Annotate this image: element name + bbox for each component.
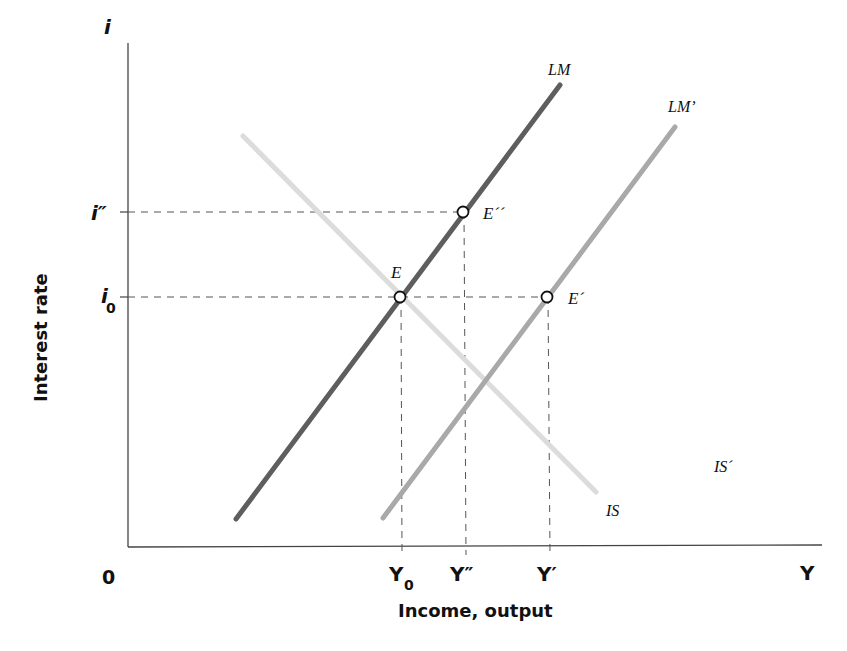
equilibrium-point-e bbox=[395, 292, 406, 303]
x-tick-y-prime: Y′ bbox=[536, 562, 557, 586]
y-axis-symbol: i bbox=[104, 15, 112, 39]
x-axis bbox=[128, 545, 822, 547]
y-tick-i0-sub: 0 bbox=[106, 300, 116, 316]
y-axis-title: Interest rate bbox=[30, 273, 51, 402]
y-tick-i0: i 0 bbox=[101, 284, 116, 316]
x-axis-symbol: Y bbox=[799, 561, 815, 585]
equilibrium-point-e-prime bbox=[542, 292, 553, 303]
x-tick-y0-sub: 0 bbox=[404, 577, 414, 593]
label-e: E bbox=[390, 263, 402, 282]
label-is: IS bbox=[605, 502, 619, 519]
x-tick-y0: Y 0 bbox=[388, 562, 414, 593]
guide-y-prime bbox=[548, 297, 550, 555]
label-lm: LM bbox=[547, 61, 572, 78]
guide-y0 bbox=[401, 297, 402, 555]
x-tick-y-double-prime: Y″ bbox=[449, 562, 473, 586]
x-axis-title: Income, output bbox=[398, 600, 553, 621]
guide-y-double-prime bbox=[464, 212, 466, 555]
label-e-double-prime: E´´ bbox=[482, 204, 505, 223]
tick-marks bbox=[120, 212, 128, 297]
y-tick-i-double-prime: i″ bbox=[91, 201, 107, 225]
origin-label: 0 bbox=[102, 566, 115, 588]
label-lm-prime: LM’ bbox=[667, 98, 696, 115]
label-e-prime: E´ bbox=[567, 289, 584, 308]
equilibrium-point-e-double-prime bbox=[458, 207, 469, 218]
label-is-prime: IS´ bbox=[713, 458, 733, 475]
is-lm-diagram: E E´´ E´ LM LM’ IS IS´ i Y 0 i″ i 0 Y 0 … bbox=[0, 0, 847, 651]
x-tick-y0-main: Y bbox=[388, 562, 404, 586]
